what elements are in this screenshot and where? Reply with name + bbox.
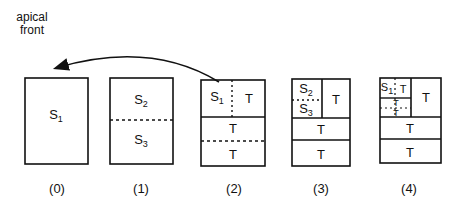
apical-front-label: apical front — [7, 11, 57, 37]
stage-3-s3-label: S3 — [299, 102, 313, 118]
stage-2-t-bot-label: T — [229, 148, 237, 161]
stage-3-caption: (3) — [313, 181, 329, 196]
stage-4-s1-label: S1 — [381, 82, 393, 96]
stage-3-t-right-label: T — [332, 93, 340, 106]
stage-3-s2-label: S2 — [299, 82, 313, 98]
stage-4-t-a-label: T — [400, 84, 407, 95]
stage-1-s3-label: S3 — [134, 133, 148, 149]
stage-4-t-c-label: T — [393, 109, 399, 118]
apical-label-line2: front — [7, 24, 57, 37]
stage-4-t-b-label: T — [393, 99, 399, 108]
stage-2-t-top-label: T — [245, 92, 253, 105]
stage-1-caption: (1) — [133, 181, 149, 196]
stage-1-box — [110, 78, 173, 164]
stage-1-s2-label: S2 — [134, 93, 148, 109]
stage-2-t-mid-label: T — [229, 122, 237, 135]
stage-4-caption: (4) — [401, 181, 417, 196]
stage-4-t-mid-label: T — [406, 122, 414, 135]
stage-2-s1-label: S1 — [210, 90, 224, 106]
stage-0-s1-label: S1 — [49, 108, 63, 124]
stage-0-caption: (0) — [49, 181, 65, 196]
stage-4-t-bot-label: T — [406, 146, 414, 159]
stage-3-t-bot-label: T — [317, 148, 325, 161]
stage-4-t-right-label: T — [422, 91, 430, 104]
stage-2-caption: (2) — [226, 181, 242, 196]
stage-3-t-mid-label: T — [317, 123, 325, 136]
